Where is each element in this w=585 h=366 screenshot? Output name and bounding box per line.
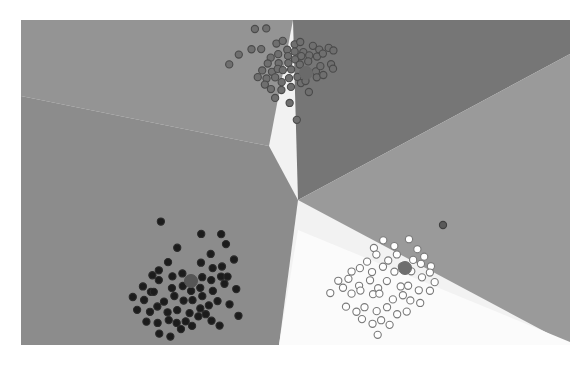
- data-point: [405, 236, 412, 243]
- data-point: [197, 305, 204, 312]
- data-point: [141, 296, 148, 303]
- data-point: [258, 46, 265, 53]
- data-point: [394, 311, 401, 318]
- outlier-right: [439, 221, 446, 228]
- data-point: [407, 297, 414, 304]
- data-point: [342, 303, 349, 310]
- data-point: [361, 304, 368, 311]
- data-point: [405, 282, 412, 289]
- data-point: [197, 259, 204, 266]
- data-point: [286, 99, 293, 106]
- data-point: [216, 322, 223, 329]
- data-point: [385, 257, 392, 264]
- data-point: [363, 258, 370, 265]
- data-point: [431, 279, 438, 286]
- data-point: [358, 316, 365, 323]
- data-point: [221, 280, 228, 287]
- data-point: [179, 270, 186, 277]
- data-point: [426, 269, 433, 276]
- data-point: [305, 88, 312, 95]
- data-point: [357, 287, 364, 294]
- data-point: [218, 263, 225, 270]
- data-point: [389, 296, 396, 303]
- data-point: [226, 61, 233, 68]
- data-point: [319, 50, 326, 57]
- data-point: [383, 304, 390, 311]
- data-point: [272, 94, 279, 101]
- data-point: [197, 284, 204, 291]
- data-point: [317, 63, 324, 70]
- data-point: [129, 293, 136, 300]
- data-point: [160, 298, 167, 305]
- data-point: [188, 287, 195, 294]
- data-point: [188, 322, 195, 329]
- data-point: [218, 231, 225, 238]
- cluster-top: [226, 25, 337, 124]
- data-point: [156, 330, 163, 337]
- data-point: [165, 317, 172, 324]
- data-point: [143, 318, 150, 325]
- data-point: [287, 66, 294, 73]
- data-point: [403, 308, 410, 315]
- data-point: [417, 299, 424, 306]
- data-point: [279, 37, 286, 44]
- data-point: [155, 277, 162, 284]
- cluster-bottom-right: [327, 236, 439, 339]
- data-point: [297, 38, 304, 45]
- data-point: [235, 312, 242, 319]
- data-point: [233, 285, 240, 292]
- data-point: [378, 317, 385, 324]
- data-point: [391, 243, 398, 250]
- data-point: [374, 331, 381, 338]
- data-point: [386, 321, 393, 328]
- data-point: [293, 116, 300, 123]
- data-point: [410, 256, 417, 263]
- data-point: [259, 67, 266, 74]
- data-point: [180, 297, 187, 304]
- data-point: [383, 277, 390, 284]
- data-point: [278, 79, 285, 86]
- data-point: [414, 246, 421, 253]
- kmeans-voronoi-figure: [0, 0, 585, 366]
- cluster-centroid-marker: [300, 67, 313, 80]
- data-point: [263, 25, 270, 32]
- data-point: [230, 256, 237, 263]
- data-point: [146, 308, 153, 315]
- data-point: [373, 251, 380, 258]
- data-point: [368, 268, 375, 275]
- data-point: [426, 287, 433, 294]
- data-point: [207, 250, 214, 257]
- data-point: [195, 313, 202, 320]
- data-point: [171, 292, 178, 299]
- data-point: [296, 61, 303, 68]
- data-point: [208, 276, 215, 283]
- data-point: [264, 60, 271, 67]
- data-point: [348, 290, 355, 297]
- data-point: [150, 288, 157, 295]
- data-point: [329, 65, 336, 72]
- data-point: [199, 293, 206, 300]
- data-point: [154, 303, 161, 310]
- data-point: [278, 86, 285, 93]
- data-point: [376, 290, 383, 297]
- data-point: [391, 268, 398, 275]
- data-point: [182, 318, 189, 325]
- data-point: [399, 292, 406, 299]
- data-point: [177, 325, 184, 332]
- data-point: [305, 58, 312, 65]
- data-point: [169, 273, 176, 280]
- data-point: [267, 85, 274, 92]
- data-point: [279, 67, 286, 74]
- cluster-centroid-marker: [185, 275, 198, 288]
- data-point: [379, 263, 386, 270]
- data-point: [356, 265, 363, 272]
- data-point: [397, 283, 404, 290]
- data-point: [164, 309, 171, 316]
- scatter-points-layer: [21, 20, 570, 345]
- data-point: [199, 274, 206, 281]
- data-point: [202, 311, 209, 318]
- data-point: [235, 51, 242, 58]
- data-point: [226, 301, 233, 308]
- data-point: [208, 317, 215, 324]
- data-point: [167, 333, 174, 340]
